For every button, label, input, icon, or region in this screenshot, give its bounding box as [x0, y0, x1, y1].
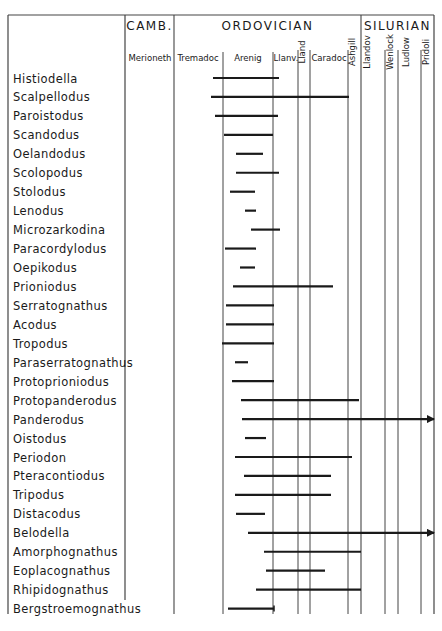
genus-row: Rhipidognathus [13, 583, 361, 597]
genus-row: Eoplacognathus [13, 564, 325, 578]
stage-label-llandov: Llandov [362, 35, 372, 68]
stage-label-merioneth: Merioneth [129, 53, 172, 63]
genus-row: Oelandodus [13, 147, 263, 161]
genus-name: Scandodus [13, 128, 79, 142]
genus-row: Bergstroemognathus [13, 602, 274, 616]
genus-row: Oepikodus [13, 261, 255, 275]
genus-row: Protoprioniodus [13, 375, 274, 389]
stage-label-pridoli: Pridoli [421, 39, 431, 65]
genus-name: Rhipidognathus [13, 583, 109, 597]
genus-name: Histiodella [13, 72, 78, 86]
genus-name: Paracordylodus [13, 242, 107, 256]
stage-label-tremadoc: Tremadoc [176, 53, 219, 63]
genus-name: Panderodus [13, 413, 84, 427]
stage-boundary-lines [174, 15, 421, 614]
genus-name: Tripodus [12, 488, 64, 502]
genus-row: Paraserratognathus [13, 356, 248, 370]
genus-name: Pteracontiodus [13, 469, 105, 483]
genus-row: Histiodella [13, 72, 279, 86]
genus-row: Amorphognathus [13, 545, 361, 559]
stage-label-llanv: Llanv. [274, 53, 299, 63]
genus-row: Periodon [13, 451, 352, 465]
genus-row: Pteracontiodus [13, 469, 331, 483]
genus-name: Scalpellodus [13, 90, 90, 104]
genus-row: Scalpellodus [13, 90, 349, 104]
genus-name: Oepikodus [13, 261, 77, 275]
genus-name: Periodon [13, 451, 66, 465]
stage-label-arenig: Arenig [234, 53, 262, 63]
stage-label-wenlock: Wenlock [385, 34, 395, 70]
genus-row: Serratognathus [13, 299, 274, 313]
genus-name: Prioniodus [13, 280, 77, 294]
genus-name: Amorphognathus [13, 545, 118, 559]
genus-name: Belodella [13, 526, 70, 540]
genus-name: Distacodus [13, 507, 81, 521]
genus-row: Stolodus [13, 185, 255, 199]
stage-label-caradoc: Caradoc [311, 53, 346, 63]
genus-name: Lenodus [13, 204, 64, 218]
genus-row: Tripodus [12, 488, 331, 502]
stage-label-ludlow: Ludlow [401, 37, 411, 67]
genus-row: Lenodus [13, 204, 256, 218]
genus-name: Protopanderodus [13, 394, 117, 408]
genus-name: Tropodus [12, 337, 68, 351]
period-label-silurian: SILURIAN [364, 19, 431, 33]
genus-row: Oistodus [13, 432, 266, 446]
genus-row: Scandodus [13, 128, 273, 142]
chart-frame [8, 15, 434, 614]
genus-row: Distacodus [13, 507, 265, 521]
period-label-camb: CAMB. [126, 19, 173, 33]
genus-name: Stolodus [13, 185, 66, 199]
genus-row: Tropodus [12, 337, 274, 351]
genus-name: Paroistodus [13, 109, 84, 123]
genus-row: Protopanderodus [13, 394, 359, 408]
genus-name: Oelandodus [13, 147, 86, 161]
genus-name: Acodus [13, 318, 57, 332]
genus-row: Microzarkodina [13, 223, 280, 237]
genus-name: Protoprioniodus [13, 375, 109, 389]
genus-row: Prioniodus [13, 280, 333, 294]
genus-row: Scolopodus [13, 166, 279, 180]
genus-name: Microzarkodina [13, 223, 105, 237]
genus-row: Paroistodus [13, 109, 278, 123]
stratigraphic-range-chart: CAMB.ORDOVICIANSILURIANMerionethTremadoc… [0, 0, 442, 631]
genus-name: Paraserratognathus [13, 356, 133, 370]
genus-name: Serratognathus [13, 299, 108, 313]
genus-name: Bergstroemognathus [13, 602, 141, 616]
genus-name: Scolopodus [13, 166, 83, 180]
genus-name: Eoplacognathus [13, 564, 111, 578]
period-label-ordovician: ORDOVICIAN [221, 19, 313, 33]
genus-row: Acodus [13, 318, 274, 332]
genus-name: Oistodus [13, 432, 67, 446]
genus-row: Paracordylodus [13, 242, 256, 256]
